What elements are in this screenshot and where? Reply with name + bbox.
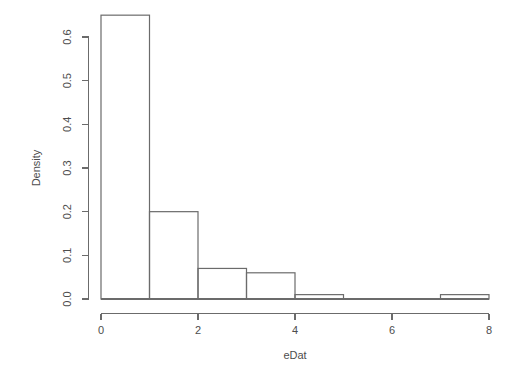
x-tick-label-4: 4 bbox=[292, 324, 298, 336]
y-axis-tick-labels: 0.0 0.1 0.2 0.3 0.4 0.5 0.6 bbox=[61, 29, 73, 306]
hist-bar-0 bbox=[101, 15, 150, 299]
histogram-bars bbox=[101, 15, 489, 299]
y-tick-label-5: 0.5 bbox=[61, 73, 73, 88]
y-tick-label-1: 0.1 bbox=[61, 248, 73, 263]
x-tick-label-2: 2 bbox=[195, 324, 201, 336]
y-tick-label-0: 0.0 bbox=[61, 291, 73, 306]
x-tick-label-8: 8 bbox=[486, 324, 492, 336]
x-axis-title: eDat bbox=[283, 349, 306, 361]
hist-bar-2 bbox=[198, 268, 247, 299]
y-tick-label-2: 0.2 bbox=[61, 204, 73, 219]
histogram-plot: 0.0 0.1 0.2 0.3 0.4 0.5 0.6 Density bbox=[0, 0, 519, 377]
x-tick-label-6: 6 bbox=[389, 324, 395, 336]
y-tick-label-6: 0.6 bbox=[61, 29, 73, 44]
hist-bar-4 bbox=[295, 295, 344, 299]
x-axis-ticks bbox=[101, 314, 489, 321]
y-tick-label-4: 0.4 bbox=[61, 117, 73, 132]
y-axis-ticks bbox=[82, 37, 89, 299]
y-tick-label-3: 0.3 bbox=[61, 160, 73, 175]
hist-bar-7 bbox=[441, 295, 490, 299]
plot-canvas: 0.0 0.1 0.2 0.3 0.4 0.5 0.6 Density bbox=[0, 0, 519, 377]
x-tick-label-0: 0 bbox=[98, 324, 104, 336]
hist-bar-1 bbox=[150, 212, 199, 299]
x-axis-tick-labels: 0 2 4 6 8 bbox=[98, 324, 492, 336]
hist-bar-3 bbox=[247, 273, 296, 299]
y-axis-title: Density bbox=[30, 149, 42, 186]
